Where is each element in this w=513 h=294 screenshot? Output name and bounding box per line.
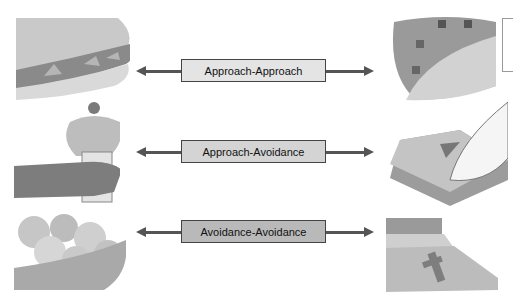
right-arrow-head <box>364 227 374 237</box>
right-arrow-head <box>364 66 374 76</box>
bed-cross-icon <box>386 218 502 292</box>
bowl-of-food-icon <box>14 214 126 290</box>
ice-cream-cone-icon <box>14 100 120 206</box>
legend-fragment <box>502 18 513 72</box>
box-label: Avoidance-Avoidance <box>200 226 306 238</box>
right-arrow <box>326 151 366 154</box>
left-arrow <box>144 151 181 154</box>
right-arrow-head <box>364 147 374 157</box>
sandwich-icon <box>14 14 130 100</box>
box-label: Approach-Avoidance <box>203 146 305 158</box>
right-arrow <box>326 70 366 73</box>
left-arrow <box>144 231 181 234</box>
box-label: Approach-Approach <box>205 65 303 77</box>
approach-avoidance-box: Approach-Avoidance <box>181 140 326 163</box>
scale-foot-icon <box>390 100 508 206</box>
taco-icon <box>386 16 498 102</box>
right-arrow <box>326 231 366 234</box>
avoidance-avoidance-box: Avoidance-Avoidance <box>181 220 326 243</box>
left-arrow <box>144 70 181 73</box>
approach-approach-box: Approach-Approach <box>181 59 326 82</box>
